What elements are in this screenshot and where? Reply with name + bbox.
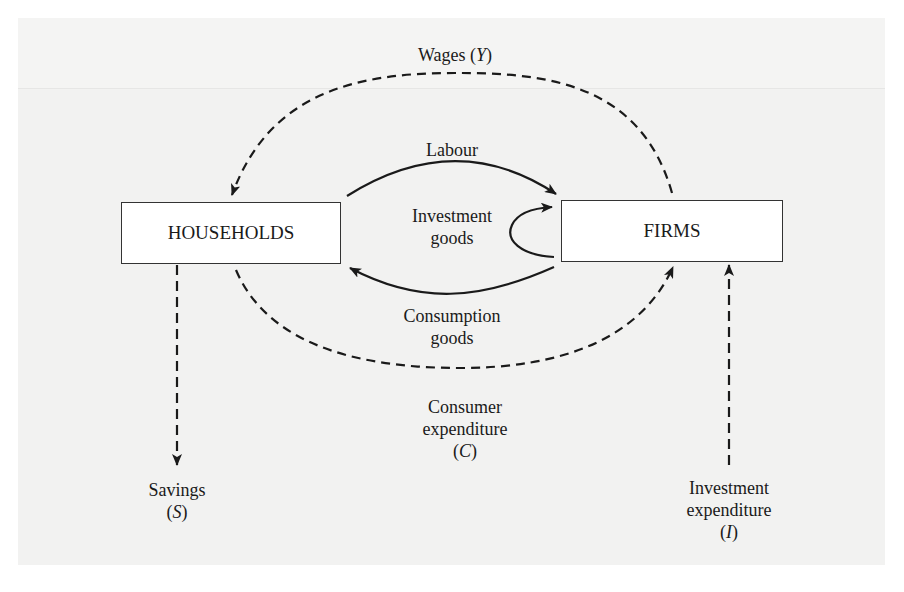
consumption-goods-label: Consumption goods <box>403 305 500 349</box>
wages-label: Wages (Y) <box>418 44 492 66</box>
investment-goods-label: Investment goods <box>412 205 492 249</box>
firms-label: FIRMS <box>643 220 700 242</box>
investment-expenditure-label: Investment expenditure (I) <box>687 477 772 543</box>
labour-label: Labour <box>426 139 478 161</box>
labour-flow-arrow <box>347 161 556 196</box>
households-box: HOUSEHOLDS <box>121 202 341 264</box>
investment-goods-loop-arrow <box>510 207 554 257</box>
firms-box: FIRMS <box>561 200 783 262</box>
savings-label: Savings (S) <box>148 479 205 523</box>
consumer-expenditure-label: Consumer expenditure (C) <box>423 396 508 462</box>
wages-flow-arrow <box>232 73 672 195</box>
consumption-goods-flow-arrow <box>350 267 554 294</box>
households-label: HOUSEHOLDS <box>168 222 295 244</box>
